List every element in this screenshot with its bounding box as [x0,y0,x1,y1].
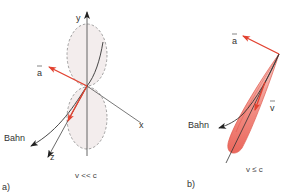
velocity-label-b: v [270,103,275,113]
acceleration-label-b: a [232,36,237,46]
panel-b: a v Bahn v ≤ c b) [187,34,279,189]
x-axis-label: x [139,120,144,130]
y-axis-label: y [76,13,81,23]
panel-a: y x z a Bahn v << c a) [2,12,144,192]
condition-label-b: v ≤ c [246,165,263,174]
panel-a-caption: a) [2,182,10,192]
bahn-label-b: Bahn [188,120,209,130]
radiation-diagram: y x z a Bahn v << c a) a v Bahn v ≤ c b) [0,0,284,194]
bahn-label-a: Bahn [4,133,25,143]
z-axis-label: z [50,152,55,162]
acceleration-label-a: a [37,68,42,78]
panel-b-caption: b) [187,179,195,189]
acceleration-vector-b [243,36,279,54]
condition-label-a: v << c [75,171,97,180]
